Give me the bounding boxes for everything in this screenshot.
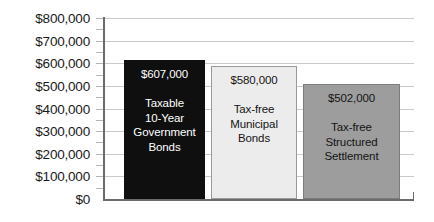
bar-category-label: Taxable 10-Year Government Bonds (133, 96, 195, 154)
bar-category-label: Tax-free Municipal Bonds (230, 102, 278, 146)
bar-taxable-government-bonds[interactable]: $607,000 Taxable 10-Year Government Bond… (124, 60, 205, 199)
y-tick-label: $700,000 (0, 33, 90, 48)
bar-label-line: Bonds (133, 140, 195, 155)
y-axis-labels: $800,000 $700,000 $600,000 $500,000 $400… (0, 0, 90, 222)
bar-tax-free-municipal-bonds[interactable]: $580,000 Tax-free Municipal Bonds (211, 66, 297, 199)
bar-label-line: Tax-free (325, 120, 379, 135)
bar-label-line: Settlement (325, 149, 379, 164)
bar-tax-free-structured-settlement[interactable]: $502,000 Tax-free Structured Settlement (303, 84, 400, 199)
bar-value-label: $607,000 (141, 68, 188, 80)
bar-category-label: Tax-free Structured Settlement (325, 120, 379, 164)
bar-label-line: Government (133, 125, 195, 140)
x-axis-end-cap (413, 192, 415, 200)
y-axis-line (103, 17, 105, 200)
y-tick-label: $800,000 (0, 11, 90, 26)
x-axis-line (103, 199, 414, 201)
y-tick-label: $0 (0, 192, 90, 207)
bar-value-label: $502,000 (328, 92, 375, 104)
y-tick-label: $400,000 (0, 101, 90, 116)
y-tick-label: $500,000 (0, 78, 90, 93)
y-tick-label: $600,000 (0, 56, 90, 71)
y-tick-label: $100,000 (0, 169, 90, 184)
bar-label-line: Municipal (230, 117, 278, 132)
bar-label-line: Tax-free (230, 102, 278, 117)
bar-label-line: Taxable (133, 96, 195, 111)
bar-label-line: 10-Year (133, 111, 195, 126)
bar-value-label: $580,000 (230, 74, 277, 86)
y-tick-label: $200,000 (0, 146, 90, 161)
bar-label-line: Structured (325, 135, 379, 150)
y-tick-label: $300,000 (0, 124, 90, 139)
bar-chart: $800,000 $700,000 $600,000 $500,000 $400… (0, 0, 434, 222)
plot-area: $607,000 Taxable 10-Year Government Bond… (104, 17, 414, 200)
bar-label-line: Bonds (230, 131, 278, 146)
